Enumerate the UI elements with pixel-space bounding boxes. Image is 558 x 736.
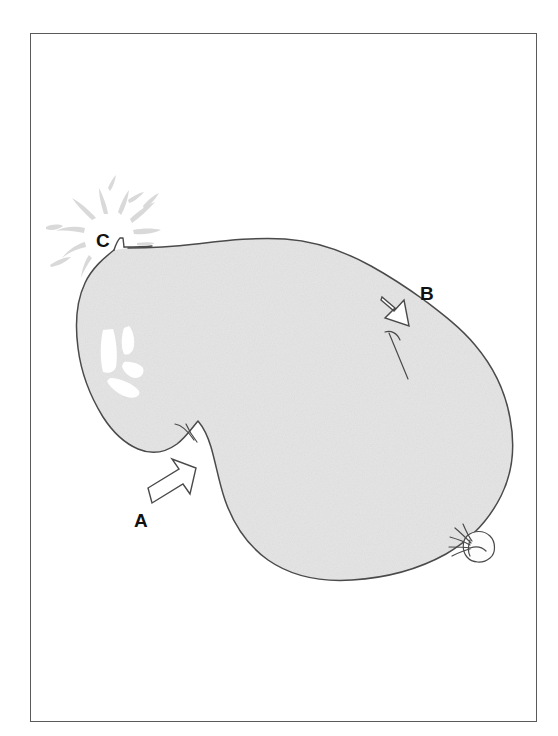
balloon-neck-lip — [124, 246, 152, 247]
balloon-illustration — [0, 0, 558, 736]
splash-droplet-2 — [50, 257, 71, 267]
splash-droplet-5 — [137, 242, 155, 245]
label-b: B — [420, 284, 434, 303]
splash-ray-4 — [99, 188, 108, 214]
splash-ray-1 — [118, 190, 129, 215]
balloon-neck-tip — [114, 238, 124, 250]
arrow-a — [148, 459, 196, 503]
figure-page: A B C — [0, 0, 558, 736]
splash-ray-7 — [62, 242, 86, 258]
arrow-a-outline — [148, 459, 196, 503]
splash-ray-3 — [133, 229, 161, 235]
label-c: C — [96, 231, 110, 250]
splash-ray-2 — [130, 202, 155, 223]
label-a: A — [134, 511, 148, 530]
splash-ray-5 — [72, 198, 96, 220]
splash-droplet-3 — [143, 193, 159, 209]
splash-droplet-4 — [108, 175, 116, 191]
splash-droplet-6 — [128, 192, 144, 203]
shine-highlight-1 — [101, 329, 117, 373]
